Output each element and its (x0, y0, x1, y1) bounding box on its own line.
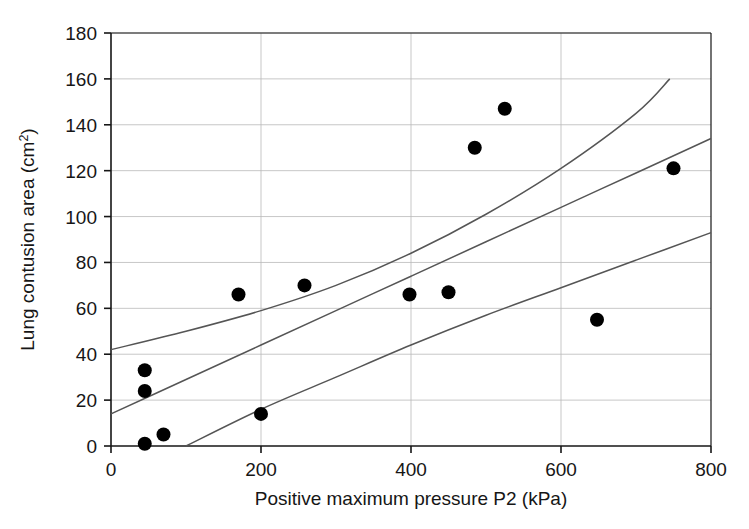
chart-figure: 020406080100120140160180 0200400600800 P… (0, 0, 749, 529)
y-axis-title-superscript: 2 (17, 135, 31, 142)
y-tick-label-160: 160 (65, 69, 97, 90)
curve-upper-confidence-band (111, 79, 670, 350)
axis-titles: Positive maximum pressure P2 (kPa)Lung c… (17, 128, 567, 509)
x-axis-tick-labels: 0200400600800 (106, 459, 727, 480)
data-point-2 (138, 363, 152, 377)
data-point-5 (254, 407, 268, 421)
data-point-markers (138, 102, 681, 451)
data-point-9 (468, 141, 482, 155)
y-tick-label-0: 0 (86, 436, 97, 457)
y-tick-label-100: 100 (65, 207, 97, 228)
y-tick-label-80: 80 (76, 252, 97, 273)
x-axis-ticks (111, 446, 711, 453)
x-tick-label-800: 800 (695, 459, 727, 480)
data-point-12 (667, 161, 681, 175)
x-tick-label-200: 200 (245, 459, 277, 480)
data-point-1 (138, 384, 152, 398)
y-axis-title-tail: ) (17, 128, 38, 134)
y-axis-tick-labels: 020406080100120140160180 (65, 23, 97, 457)
x-tick-label-0: 0 (106, 459, 117, 480)
y-axis-title-base: Lung contusion area (cm (17, 142, 38, 351)
x-tick-label-400: 400 (395, 459, 427, 480)
y-tick-label-40: 40 (76, 344, 97, 365)
data-point-8 (442, 285, 456, 299)
y-tick-label-60: 60 (76, 298, 97, 319)
data-point-0 (138, 437, 152, 451)
data-point-6 (298, 278, 312, 292)
data-point-3 (157, 428, 171, 442)
y-tick-label-140: 140 (65, 115, 97, 136)
y-tick-label-20: 20 (76, 390, 97, 411)
y-tick-label-120: 120 (65, 161, 97, 182)
x-axis-title: Positive maximum pressure P2 (kPa) (255, 488, 568, 509)
data-point-10 (498, 102, 512, 116)
y-tick-label-180: 180 (65, 23, 97, 44)
data-point-4 (232, 288, 246, 302)
y-axis-ticks (104, 33, 111, 446)
data-point-11 (590, 313, 604, 327)
data-point-7 (403, 288, 417, 302)
y-axis-title: Lung contusion area (cm2) (17, 128, 38, 350)
scatter-plot: 020406080100120140160180 0200400600800 P… (0, 0, 749, 529)
vertical-gridlines (261, 33, 561, 446)
x-tick-label-600: 600 (545, 459, 577, 480)
